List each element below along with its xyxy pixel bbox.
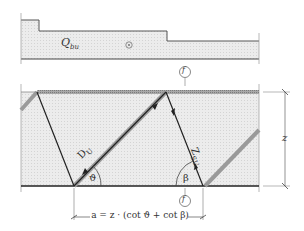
spacing-formula: a = z · (cot ϑ + cot β) bbox=[89, 210, 191, 220]
beta-label: β bbox=[183, 172, 189, 183]
theta-label: ϑ bbox=[89, 172, 96, 183]
shear-force-diagram bbox=[21, 13, 259, 64]
shear-force-label: Qbu bbox=[61, 36, 79, 51]
truss-diagram bbox=[0, 0, 304, 231]
height-label: z bbox=[282, 132, 287, 143]
section-label-top: f bbox=[182, 65, 185, 74]
top-chord bbox=[37, 90, 259, 94]
beam-body bbox=[21, 84, 259, 192]
section-label-bottom: f bbox=[182, 194, 185, 203]
